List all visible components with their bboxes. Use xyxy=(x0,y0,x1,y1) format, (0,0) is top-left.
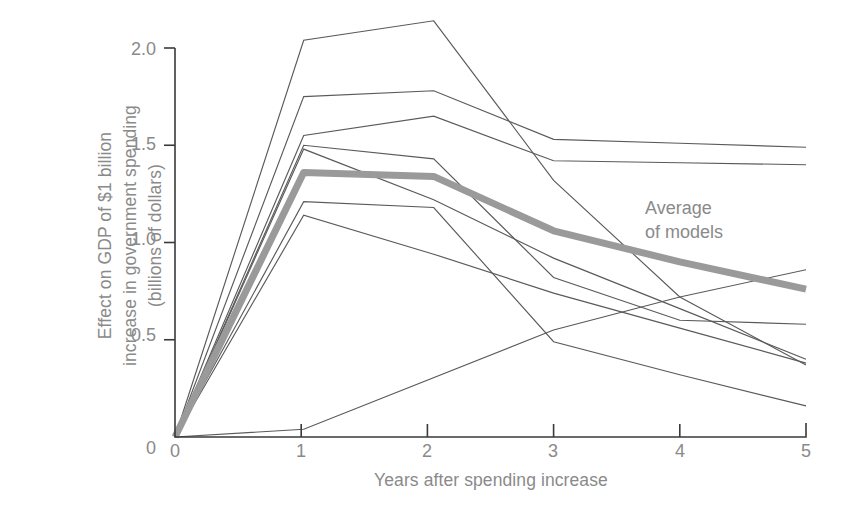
series-line-model-3 xyxy=(175,116,806,437)
plot-area xyxy=(0,0,843,509)
series-line-model-5 xyxy=(175,149,806,437)
series-line-model-4 xyxy=(175,145,806,437)
series-layer xyxy=(175,21,806,437)
chart-figure: Effect on GDP of $1 billion increase in … xyxy=(0,0,843,509)
series-line-model-1 xyxy=(175,21,806,437)
series-line-average xyxy=(175,173,806,438)
series-line-model-8 xyxy=(175,270,806,437)
